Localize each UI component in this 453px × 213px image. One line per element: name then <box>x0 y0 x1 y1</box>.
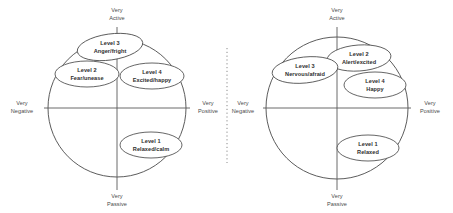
axis-label-left-left-line2: Negative <box>11 108 33 114</box>
bubble-left-level-4: Level 4 Excited/happy <box>120 63 184 89</box>
bubble-level-right-level-4: Level 4 <box>365 78 385 84</box>
bubble-emotion-right-level-2: Alert/excited <box>342 59 377 65</box>
axis-label-top-right-line1: Very <box>331 7 343 13</box>
axis-label-bottom-left-line1: Very <box>111 193 123 199</box>
axis-label-left-left-line1: Very <box>16 100 28 106</box>
axis-label-right-right-line1: Very <box>424 100 436 106</box>
bubble-right-level-3: Level 3 Nervous/afraid <box>271 54 339 87</box>
diagram-right: Very Active Very Passive Very Negative V… <box>232 7 440 207</box>
bubble-shape-right-level-4 <box>344 72 406 98</box>
bubble-right-level-4: Level 4 Happy <box>344 72 406 98</box>
bubble-level-left-level-4: Level 4 <box>142 69 162 75</box>
bubble-shape-left-level-2 <box>55 61 119 87</box>
bubble-emotion-left-level-4: Excited/happy <box>133 77 172 83</box>
bubble-left-level-3: Level 3 Anger/fright <box>76 30 145 65</box>
bubble-shape-right-level-1 <box>337 135 399 161</box>
axis-label-top-left-line1: Very <box>111 7 123 13</box>
bubble-emotion-left-level-3: Anger/fright <box>94 48 127 54</box>
axis-label-bottom-right-line1: Very <box>331 193 343 199</box>
axis-label-bottom-left-line2: Passive <box>107 201 127 207</box>
bubble-left-level-2: Level 2 Fear/unease <box>55 61 119 87</box>
bubble-level-right-level-3: Level 3 <box>295 63 314 69</box>
axis-label-right-left-line1: Very <box>202 100 214 106</box>
emotion-circumplex-figure: Very Active Very Passive Very Negative V… <box>0 0 453 213</box>
bubble-level-left-level-2: Level 2 <box>77 67 96 73</box>
bubble-shape-left-level-4 <box>120 63 184 89</box>
bubble-shape-left-level-3 <box>76 30 145 65</box>
axis-label-left-right-line1: Very <box>237 100 249 106</box>
axis-label-left-right-line2: Negative <box>232 108 254 114</box>
bubble-emotion-left-level-1: Relaxed/calm <box>133 146 169 152</box>
diagram-left: Very Active Very Passive Very Negative V… <box>11 7 218 207</box>
axis-label-bottom-right-line2: Passive <box>327 201 347 207</box>
axis-label-top-left-line2: Active <box>109 15 125 21</box>
bubble-emotion-right-level-4: Happy <box>366 86 384 92</box>
bubble-right-level-1: Level 1 Relaxed <box>337 135 399 161</box>
bubble-emotion-left-level-2: Fear/unease <box>70 75 103 81</box>
bubble-shape-left-level-1 <box>120 132 182 158</box>
bubble-emotion-right-level-3: Nervous/afraid <box>285 71 325 77</box>
axis-label-right-right-line2: Positive <box>420 108 440 114</box>
axis-label-right-left-line2: Positive <box>198 108 218 114</box>
bubble-shape-right-level-3 <box>271 54 339 87</box>
bubble-level-left-level-1: Level 1 <box>141 138 160 144</box>
bubble-left-level-1: Level 1 Relaxed/calm <box>120 132 182 158</box>
bubble-emotion-right-level-1: Relaxed <box>357 149 379 155</box>
bubble-level-right-level-1: Level 1 <box>358 141 377 147</box>
bubble-level-right-level-2: Level 2 <box>349 51 368 57</box>
bubble-level-left-level-3: Level 3 <box>100 40 119 46</box>
axis-label-top-right-line2: Active <box>329 15 345 21</box>
